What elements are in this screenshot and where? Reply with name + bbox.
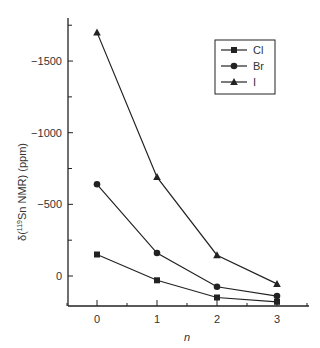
x-tick-label: 0 bbox=[94, 313, 100, 325]
series-line bbox=[97, 184, 277, 296]
circle-marker-icon bbox=[154, 250, 161, 257]
legend: ClBrI bbox=[215, 40, 275, 94]
y-tick-label: −500 bbox=[37, 198, 62, 210]
x-tick-label: 2 bbox=[214, 313, 220, 325]
series-br bbox=[94, 181, 281, 299]
series-cl bbox=[94, 252, 280, 305]
square-marker-icon bbox=[274, 299, 280, 305]
square-marker-icon bbox=[214, 294, 220, 300]
y-axis-title: δ(119Sn NMR) (ppm) bbox=[16, 143, 28, 241]
triangle-marker-icon bbox=[93, 28, 101, 35]
square-marker-icon bbox=[231, 47, 237, 53]
circle-marker-icon bbox=[231, 63, 238, 70]
circle-marker-icon bbox=[94, 181, 101, 188]
square-marker-icon bbox=[94, 252, 100, 258]
x-tick-label: 3 bbox=[274, 313, 280, 325]
y-tick-label: 0 bbox=[56, 270, 62, 282]
nmr-shift-chart: −1500−1000−50000123nδ(119Sn NMR) (ppm) C… bbox=[0, 0, 320, 348]
x-axis-title: n bbox=[184, 331, 190, 343]
circle-marker-icon bbox=[214, 283, 221, 290]
x-tick-label: 1 bbox=[154, 313, 160, 325]
legend-box bbox=[215, 40, 275, 94]
legend-label: Cl bbox=[253, 44, 263, 56]
circle-marker-icon bbox=[274, 293, 281, 300]
series-line bbox=[97, 255, 277, 302]
triangle-marker-icon bbox=[153, 173, 161, 180]
triangle-marker-icon bbox=[273, 280, 281, 287]
legend-label: I bbox=[253, 76, 256, 88]
square-marker-icon bbox=[154, 277, 160, 283]
legend-label: Br bbox=[253, 60, 264, 72]
y-tick-label: −1000 bbox=[31, 127, 62, 139]
y-tick-label: −1500 bbox=[31, 55, 62, 67]
